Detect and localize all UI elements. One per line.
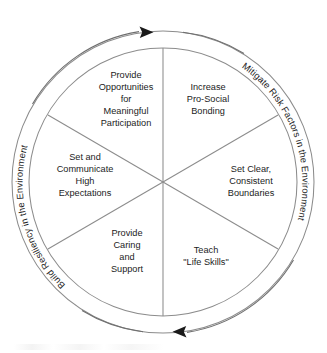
bottom-arrow-arc-left bbox=[82, 311, 143, 332]
sector-line: Set Clear, bbox=[231, 164, 271, 174]
sector-line: Provide bbox=[111, 228, 142, 238]
sector-provide-caring-and-support: Provide Caring and Support bbox=[111, 228, 144, 274]
sector-provide-opportunities-for-meaningful-participation: Provide Opportunities for Meaningful Par… bbox=[99, 70, 154, 128]
sector-line: Provide bbox=[110, 70, 141, 80]
sector-line: Pro-Social bbox=[187, 94, 229, 104]
sector-line: Boundaries bbox=[228, 188, 275, 198]
bottom-arrow-arc-right bbox=[187, 260, 294, 332]
sector-line: Communicate bbox=[57, 164, 114, 174]
sector-line: Bonding bbox=[191, 106, 225, 116]
sector-line: Expectations bbox=[59, 188, 112, 198]
sector-line: Set and bbox=[69, 152, 101, 162]
sector-line: Increase bbox=[190, 82, 225, 92]
sector-increase-pro-social-bonding: Increase Pro-Social Bonding bbox=[187, 82, 229, 116]
sector-line: Opportunities bbox=[99, 82, 154, 92]
sector-teach-life-skills: Teach "Life Skills" bbox=[183, 245, 228, 267]
resiliency-wheel-diagram: Mitigate Risk Factors in the Environment… bbox=[0, 0, 327, 353]
sector-line: for bbox=[121, 94, 132, 104]
sector-line: and bbox=[119, 252, 134, 262]
sector-line: Meaningful bbox=[104, 106, 149, 116]
sector-line: Participation bbox=[101, 118, 152, 128]
sector-line: Teach bbox=[194, 245, 219, 255]
wheel-canvas: Mitigate Risk Factors in the Environment… bbox=[0, 0, 327, 353]
sector-set-and-communicate-high-expectations: Set and Communicate High Expectations bbox=[57, 152, 114, 198]
sector-line: Consistent bbox=[229, 176, 273, 186]
sector-line: Support bbox=[111, 264, 144, 274]
top-arrow-arc-right bbox=[183, 32, 244, 53]
sector-line: "Life Skills" bbox=[183, 257, 228, 267]
sector-line: High bbox=[76, 176, 95, 186]
sector-set-clear-consistent-boundaries: Set Clear, Consistent Boundaries bbox=[228, 164, 275, 198]
sector-line: Caring bbox=[113, 240, 140, 250]
